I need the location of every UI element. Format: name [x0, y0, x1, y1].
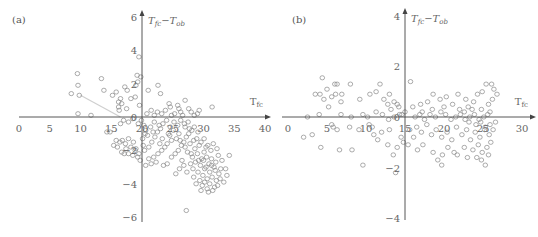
data-point: [335, 128, 340, 132]
data-point: [160, 137, 165, 141]
data-point: [198, 178, 203, 182]
x-tick-label: 10: [74, 123, 87, 134]
data-point: [191, 175, 196, 179]
data-point: [333, 92, 338, 96]
data-point: [124, 107, 129, 111]
data-point: [468, 138, 473, 142]
data-point: [193, 147, 198, 151]
data-point: [430, 107, 435, 111]
data-point: [484, 82, 489, 86]
data-point: [183, 98, 188, 102]
data-point: [486, 102, 491, 106]
data-point: [479, 158, 484, 162]
y-tick-label: 0: [131, 112, 137, 123]
y-tick-label: 2: [394, 61, 400, 72]
data-point: [220, 158, 225, 162]
data-point: [147, 157, 152, 161]
data-point: [143, 163, 148, 167]
data-point: [446, 145, 451, 149]
data-point: [483, 163, 488, 167]
data-point: [153, 135, 158, 139]
data-point: [176, 148, 181, 152]
y-tick-label: −2: [122, 145, 137, 156]
data-point: [379, 130, 384, 134]
data-point: [110, 93, 115, 97]
data-point: [449, 117, 454, 121]
data-point: [429, 133, 434, 137]
y-tick-label: −2: [385, 163, 400, 174]
data-point: [313, 92, 318, 96]
data-point: [301, 135, 306, 139]
x-tick-label: 5: [324, 123, 330, 134]
data-point: [126, 137, 131, 141]
data-point: [222, 180, 227, 184]
scatter-plot-a: (a)05101520253035406420−2−4−6Tfc−TobTfc: [0, 0, 270, 237]
x-tick-label: 15: [399, 123, 412, 134]
data-point: [374, 110, 379, 114]
data-point: [148, 125, 153, 129]
data-point: [406, 143, 411, 147]
data-point: [202, 180, 207, 184]
data-point: [114, 90, 119, 94]
data-point: [436, 158, 441, 162]
data-point: [225, 173, 230, 177]
data-point: [155, 110, 160, 114]
data-point: [156, 152, 161, 156]
data-point: [450, 102, 455, 106]
data-point: [146, 88, 151, 92]
data-point: [440, 153, 445, 157]
data-point: [489, 140, 494, 144]
data-point: [471, 100, 476, 104]
data-point: [195, 152, 200, 156]
data-point: [188, 162, 193, 166]
data-point: [465, 155, 470, 159]
x-tick-label: 25: [166, 123, 179, 134]
data-point: [422, 117, 427, 121]
data-point: [478, 135, 483, 139]
data-point: [137, 55, 142, 59]
data-point: [450, 138, 455, 142]
y-tick-label: −6: [122, 212, 137, 223]
data-point: [210, 175, 215, 179]
data-point: [75, 72, 80, 76]
chart-panel-a: (a)05101520253035406420−2−4−6Tfc−TobTfc: [0, 0, 270, 237]
data-point: [174, 172, 179, 176]
data-point: [425, 100, 430, 104]
data-point: [491, 128, 496, 132]
data-point: [414, 125, 419, 129]
data-point: [492, 87, 497, 91]
y-tick-label: −4: [385, 213, 400, 224]
data-point: [318, 92, 323, 96]
data-point: [397, 105, 402, 109]
data-point: [192, 125, 197, 129]
data-point: [421, 143, 426, 147]
data-point: [392, 100, 397, 104]
data-point: [477, 117, 482, 121]
data-point: [151, 155, 156, 159]
data-point: [76, 83, 81, 87]
data-point: [399, 135, 404, 139]
data-point: [140, 137, 145, 141]
data-point: [456, 92, 461, 96]
data-point: [471, 148, 476, 152]
data-point: [133, 95, 138, 99]
x-tick-label: 15: [105, 123, 118, 134]
data-point: [395, 102, 400, 106]
data-point: [493, 120, 498, 124]
x-tick-label: 10: [360, 123, 373, 134]
data-point: [389, 107, 394, 111]
data-point: [415, 148, 420, 152]
data-point: [201, 173, 206, 177]
data-point: [177, 167, 182, 171]
data-point: [460, 133, 465, 137]
data-point: [102, 88, 107, 92]
data-point: [182, 163, 187, 167]
y-tick-label: 2: [131, 79, 137, 90]
data-point: [368, 92, 373, 96]
data-point: [480, 90, 485, 94]
data-point: [340, 92, 345, 96]
x-tick-label: 20: [438, 123, 451, 134]
data-point: [476, 143, 481, 147]
data-point: [443, 112, 448, 116]
data-point: [326, 105, 331, 109]
